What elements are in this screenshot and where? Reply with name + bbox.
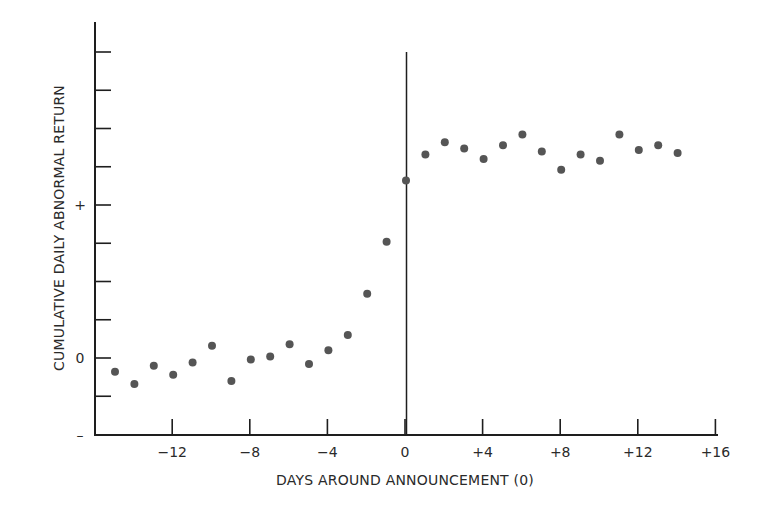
data-point	[305, 360, 313, 368]
data-point	[324, 346, 332, 354]
data-point	[169, 371, 177, 379]
y-axis-title: CUMULATIVE DAILY ABNORMAL RETURN	[51, 85, 67, 371]
data-point	[596, 157, 604, 165]
data-point	[363, 290, 371, 298]
y-tick-label: 0	[76, 350, 85, 366]
data-point	[577, 151, 585, 159]
event-study-scatter-chart: +0– −12−8−40+4+8+12+16 DAYS AROUND ANNOU…	[0, 0, 758, 516]
data-point	[615, 131, 623, 139]
data-point	[654, 141, 662, 149]
data-point	[635, 146, 643, 154]
x-axis-title: DAYS AROUND ANNOUNCEMENT (0)	[276, 472, 534, 488]
data-point	[441, 138, 449, 146]
x-tick-label: −12	[157, 444, 187, 460]
x-axis: −12−8−40+4+8+12+16	[94, 419, 730, 460]
data-point	[499, 141, 507, 149]
data-point	[111, 368, 119, 376]
x-tick-label: +12	[623, 444, 653, 460]
data-point	[421, 151, 429, 159]
y-tick-label: +	[74, 197, 86, 213]
x-tick-label: −4	[317, 444, 338, 460]
data-points	[111, 131, 682, 388]
data-point	[402, 177, 410, 185]
data-point	[247, 356, 255, 364]
data-point	[557, 166, 565, 174]
data-point	[266, 352, 274, 360]
data-point	[480, 155, 488, 163]
data-point	[674, 149, 682, 157]
x-tick-label: +8	[550, 444, 571, 460]
x-tick-label: 0	[401, 444, 410, 460]
data-point	[344, 331, 352, 339]
data-point	[518, 131, 526, 139]
data-point	[538, 147, 546, 155]
y-axis: +0–	[74, 22, 111, 443]
y-tick-label: –	[77, 427, 84, 443]
data-point	[286, 340, 294, 348]
data-point	[208, 342, 216, 350]
data-point	[130, 380, 138, 388]
data-point	[227, 377, 235, 385]
data-point	[189, 359, 197, 367]
x-tick-label: −8	[239, 444, 260, 460]
data-point	[460, 144, 468, 152]
x-tick-label: +4	[472, 444, 493, 460]
data-point	[150, 362, 158, 370]
x-tick-label: +16	[701, 444, 731, 460]
data-point	[383, 238, 391, 246]
